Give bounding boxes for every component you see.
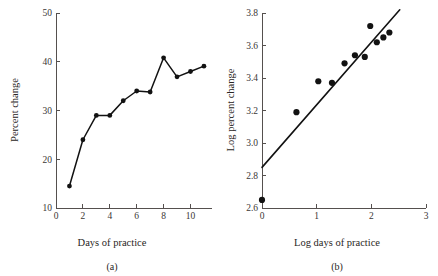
data-point — [148, 90, 153, 95]
panel-b-x-tick-labels: 0123 — [260, 211, 429, 221]
scatter-point — [380, 34, 386, 40]
scatter-point — [259, 197, 265, 203]
x-tick-label: 2 — [369, 211, 374, 221]
x-tick-label: 0 — [260, 211, 265, 221]
data-polyline — [69, 58, 203, 186]
panel-b-y-tick-labels: 2.62.83.03.23.43.63.8 — [246, 8, 258, 213]
scatter-point — [367, 23, 373, 29]
y-tick-label: 30 — [43, 106, 53, 116]
data-point — [202, 64, 207, 69]
x-tick-label: 3 — [424, 211, 429, 221]
y-tick-label: 50 — [43, 8, 53, 18]
scatter-point — [374, 39, 380, 45]
data-point — [188, 69, 193, 74]
x-tick-label: 6 — [134, 211, 139, 221]
panel-b-plot: 0123 2.62.83.03.23.43.63.8 Log days of p… — [219, 0, 438, 276]
x-tick-label: 2 — [81, 211, 86, 221]
y-tick-label: 40 — [43, 57, 53, 67]
regression-line — [262, 10, 400, 168]
data-point — [107, 113, 112, 118]
y-tick-label: 2.8 — [246, 171, 258, 181]
panel-a-x-axis-title: Days of practice — [78, 237, 147, 248]
y-tick-label: 3.0 — [246, 138, 258, 148]
panel-b-data-points — [259, 23, 393, 203]
panel-a-axes — [56, 13, 212, 208]
panel-a-plot: 0246810 1020304050 Days of practice Perc… — [0, 0, 219, 276]
data-point — [81, 137, 86, 142]
scatter-point — [315, 78, 321, 84]
panel-a-data-series — [67, 55, 206, 188]
scatter-point — [352, 52, 358, 58]
x-tick-label: 0 — [54, 211, 59, 221]
y-tick-label: 3.4 — [246, 73, 258, 83]
panel-a-tick-marks — [56, 13, 190, 208]
y-tick-label: 3.2 — [246, 106, 258, 116]
scatter-point — [386, 29, 392, 35]
y-tick-label: 20 — [43, 155, 53, 165]
scatter-point — [329, 80, 335, 86]
data-point — [175, 74, 180, 79]
panel-b-fit-line — [262, 10, 400, 168]
panel-a-y-axis-title: Percent change — [9, 78, 20, 142]
y-tick-label: 3.6 — [246, 41, 258, 51]
scatter-point — [293, 109, 299, 115]
panel-a-y-tick-labels: 1020304050 — [43, 8, 53, 213]
data-point — [94, 113, 99, 118]
y-tick-label: 10 — [43, 203, 53, 213]
x-tick-label: 1 — [314, 211, 319, 221]
data-point — [161, 55, 166, 60]
panel-a: 0246810 1020304050 Days of practice Perc… — [0, 0, 219, 276]
data-point — [121, 98, 126, 103]
panel-a-caption: (a) — [106, 261, 117, 273]
data-point — [134, 89, 139, 94]
panel-b-x-axis-title: Log days of practice — [294, 237, 380, 248]
panel-b-y-axis-title: Log percent change — [225, 68, 236, 151]
y-tick-label: 3.8 — [246, 8, 258, 18]
axis-spine — [56, 13, 212, 208]
axis-spine — [262, 13, 426, 208]
x-tick-label: 4 — [107, 211, 112, 221]
x-tick-label: 10 — [186, 211, 196, 221]
data-point — [67, 184, 72, 189]
y-tick-label: 2.6 — [246, 203, 258, 213]
x-tick-label: 8 — [161, 211, 166, 221]
panel-b-tick-marks — [262, 13, 426, 208]
panel-b-caption: (b) — [331, 261, 343, 273]
scatter-point — [362, 54, 368, 60]
scatter-point — [341, 60, 347, 66]
panel-b-axes — [262, 13, 426, 208]
figure-container: 0246810 1020304050 Days of practice Perc… — [0, 0, 438, 276]
panel-a-x-tick-labels: 0246810 — [54, 211, 196, 221]
panel-b: 0123 2.62.83.03.23.43.63.8 Log days of p… — [219, 0, 438, 276]
